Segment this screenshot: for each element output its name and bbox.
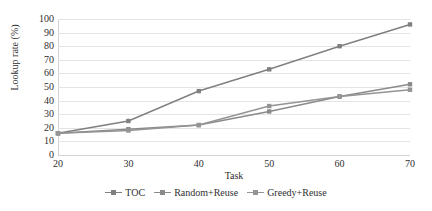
series-lines xyxy=(58,19,410,155)
legend-marker xyxy=(253,190,258,195)
data-point-marker xyxy=(197,89,201,93)
data-point-marker xyxy=(337,94,341,98)
data-point-marker xyxy=(267,109,271,113)
gridline xyxy=(58,155,410,156)
series-random-reuse xyxy=(56,82,412,135)
x-axis-tick-label: 20 xyxy=(53,158,63,169)
y-axis-tick-label: 20 xyxy=(8,123,54,133)
y-axis-tick-label: 10 xyxy=(8,136,54,146)
data-point-marker xyxy=(267,67,271,71)
x-axis-title: Task xyxy=(58,170,410,181)
legend-swatch-icon xyxy=(247,189,264,197)
legend-label: TOC xyxy=(125,187,145,198)
legend-entry[interactable]: TOC xyxy=(105,187,145,198)
x-axis-tick-label: 60 xyxy=(335,158,345,169)
data-point-marker xyxy=(408,22,412,26)
data-point-marker xyxy=(267,104,271,108)
x-axis-tick-label: 40 xyxy=(194,158,204,169)
legend-label: Greedy+Reuse xyxy=(267,187,327,198)
data-point-marker xyxy=(126,128,130,132)
plot-area xyxy=(58,19,410,155)
legend-marker xyxy=(111,190,116,195)
series-greedy-reuse xyxy=(56,88,412,136)
data-point-marker xyxy=(56,131,60,135)
legend-swatch-icon xyxy=(105,189,122,197)
chart-legend: TOCRandom+ReuseGreedy+Reuse xyxy=(0,187,432,198)
x-axis-tick-label: 50 xyxy=(264,158,274,169)
data-point-marker xyxy=(197,123,201,127)
chart-container: 0102030405060708090100 203040506070 Look… xyxy=(0,0,432,211)
x-axis-tick-label: 30 xyxy=(123,158,133,169)
legend-swatch-icon xyxy=(154,189,171,197)
data-point-marker xyxy=(126,119,130,123)
y-axis-tick-label: 0 xyxy=(8,150,54,160)
x-axis-tick-labels: 203040506070 xyxy=(58,158,410,170)
y-axis-title: Lookup rate (%) xyxy=(9,8,20,108)
y-axis-tick-label: 30 xyxy=(8,109,54,119)
series-line xyxy=(58,24,410,133)
x-axis-tick-label: 70 xyxy=(405,158,415,169)
legend-marker xyxy=(160,190,165,195)
legend-label: Random+Reuse xyxy=(174,187,238,198)
data-point-marker xyxy=(408,88,412,92)
legend-entry[interactable]: Greedy+Reuse xyxy=(247,187,327,198)
series-line xyxy=(58,84,410,133)
series-line xyxy=(58,90,410,134)
data-point-marker xyxy=(337,44,341,48)
data-point-marker xyxy=(408,82,412,86)
legend-entry[interactable]: Random+Reuse xyxy=(154,187,238,198)
